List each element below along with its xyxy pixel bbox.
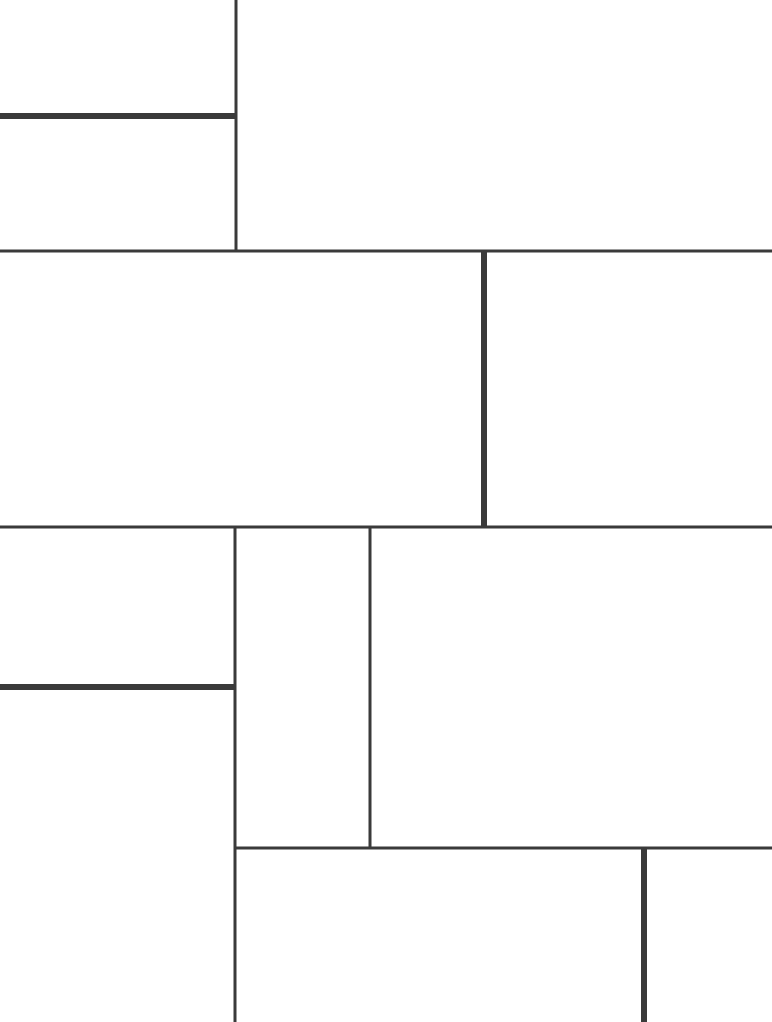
partition-diagram xyxy=(0,0,772,1022)
